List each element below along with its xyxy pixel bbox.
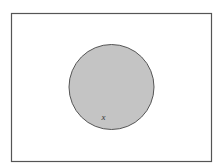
element-label-x: x bbox=[101, 112, 106, 122]
venn-diagram: x bbox=[0, 0, 224, 167]
set-circle bbox=[69, 45, 154, 130]
